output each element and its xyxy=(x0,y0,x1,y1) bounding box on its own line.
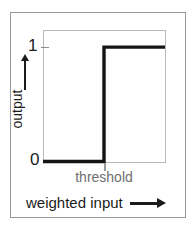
y-axis-label-group: output xyxy=(0,58,36,158)
x-tick-label-threshold: threshold xyxy=(54,170,154,185)
x-axis-label-group: weighted input xyxy=(26,193,176,213)
right-arrow-icon xyxy=(130,202,158,205)
up-arrow-icon xyxy=(24,60,26,90)
y-tick-label-one: 1 xyxy=(28,37,37,54)
x-axis-label: weighted input xyxy=(26,195,123,211)
y-tick-one xyxy=(41,47,49,48)
y-axis-label: output xyxy=(10,69,24,149)
step-function-figure: 1 0 output threshold weighted input xyxy=(0,0,196,231)
